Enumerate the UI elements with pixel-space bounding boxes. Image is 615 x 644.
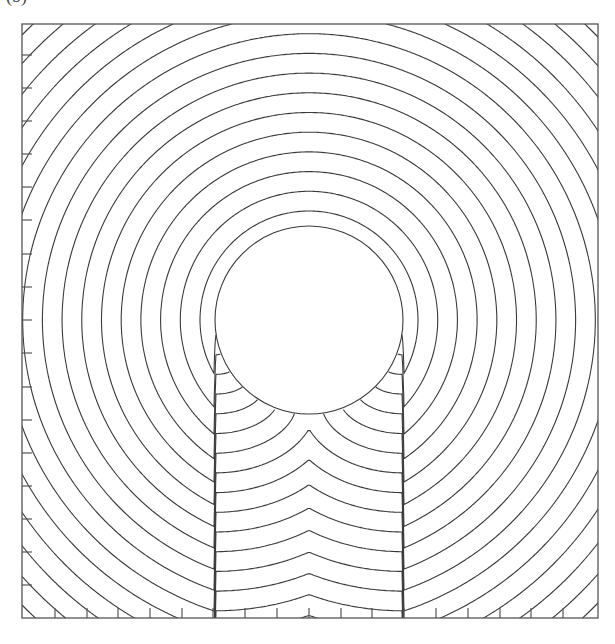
circular-obstacle (215, 226, 403, 414)
wavefront-diagram (0, 0, 615, 644)
